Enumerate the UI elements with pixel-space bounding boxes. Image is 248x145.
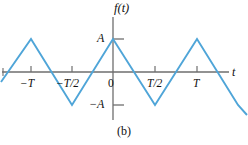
y-tick-label-neg-A: −A [89, 98, 104, 110]
x-axis-label: t [232, 66, 235, 78]
y-tick-label-A: A [97, 32, 104, 44]
figure-caption: (b) [0, 124, 248, 139]
x-tick-label-neg-T: −T [20, 78, 34, 90]
figure-container: f(t) A −A t −T −T/2 0 T/2 T (b) [0, 0, 248, 145]
waveform-curve [1, 39, 247, 115]
origin-label: 0 [108, 78, 114, 90]
y-axis-label: f(t) [114, 2, 129, 15]
x-tick-label-neg-T-half: −T/2 [56, 78, 79, 90]
x-tick-label-T: T [193, 78, 199, 90]
x-tick-label-T-half: T/2 [147, 78, 162, 90]
